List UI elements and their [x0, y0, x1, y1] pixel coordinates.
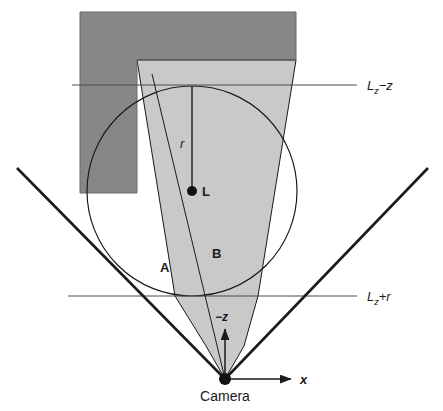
- label-axis-minus-z: −z: [215, 310, 228, 324]
- light-point-marker: [187, 186, 197, 196]
- label-lz-plus-r-op: +r: [379, 289, 392, 304]
- camera-point-marker: [219, 373, 231, 385]
- diagram-canvas: Lz−z Lz+r r L A B −z x Camera: [0, 0, 443, 411]
- label-lz-minus-z: Lz−z: [367, 78, 393, 96]
- label-region-a: A: [160, 260, 170, 275]
- label-lz-minus-z-L: L: [367, 78, 374, 93]
- camera-frustum-diagram: Lz−z Lz+r r L A B −z x Camera: [0, 0, 443, 411]
- label-region-b: B: [212, 246, 221, 261]
- label-axis-x: x: [299, 372, 308, 387]
- label-lz-plus-r: Lz+r: [367, 289, 391, 307]
- label-camera: Camera: [200, 388, 250, 404]
- label-lz-minus-z-op: −z: [379, 78, 394, 93]
- label-lz-plus-r-L: L: [367, 289, 374, 304]
- label-radius: r: [180, 136, 185, 151]
- label-light-point: L: [202, 184, 210, 199]
